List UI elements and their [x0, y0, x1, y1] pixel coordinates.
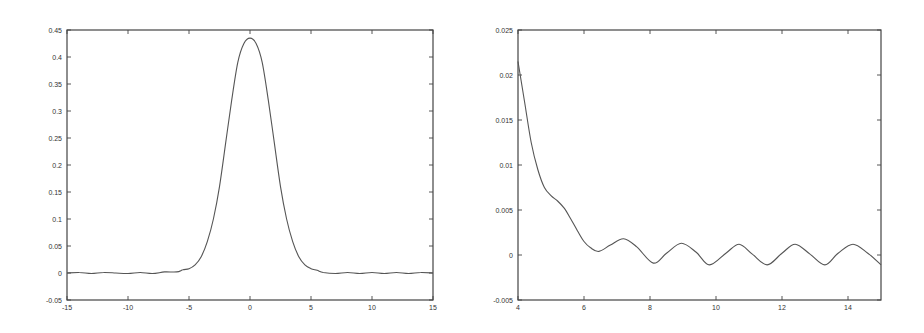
data-curve	[67, 38, 433, 273]
y-tick-label: 0.015	[495, 117, 513, 124]
y-tick-label: 0.25	[48, 135, 62, 142]
y-tick-label: 0.1	[52, 216, 62, 223]
x-tick-label: -15	[62, 304, 72, 311]
y-tick-label: 0.005	[495, 207, 513, 214]
x-tick-label: 10	[712, 304, 720, 311]
plot-frame	[518, 30, 881, 300]
figure: -15-10-5051015-0.0500.050.10.150.20.250.…	[0, 0, 924, 333]
y-tick-label: -0.05	[46, 297, 62, 304]
y-tick-label: 0.2	[52, 162, 62, 169]
right-plot-decaying-oscillation: 468101214-0.00500.0050.010.0150.020.025	[493, 27, 881, 312]
y-tick-label: 0.05	[48, 243, 62, 250]
y-tick-label: 0.4	[52, 54, 62, 61]
x-tick-label: 10	[368, 304, 376, 311]
x-tick-label: 5	[309, 304, 313, 311]
x-tick-label: 0	[248, 304, 252, 311]
y-tick-label: 0.3	[52, 108, 62, 115]
x-tick-label: 12	[778, 304, 786, 311]
y-tick-label: 0.02	[499, 72, 513, 79]
x-tick-label: 4	[516, 304, 520, 311]
x-tick-label: -10	[123, 304, 133, 311]
y-tick-label: 0.35	[48, 81, 62, 88]
x-tick-label: 15	[429, 304, 437, 311]
x-tick-label: 14	[844, 304, 852, 311]
left-plot-gaussian-peak: -15-10-5051015-0.0500.050.10.150.20.250.…	[46, 27, 437, 312]
y-tick-label: 0.45	[48, 27, 62, 34]
y-tick-label: 0.01	[499, 162, 513, 169]
x-tick-label: -5	[186, 304, 192, 311]
plot-frame	[67, 30, 433, 300]
x-tick-label: 6	[582, 304, 586, 311]
y-tick-label: -0.005	[493, 297, 513, 304]
data-curve	[518, 62, 881, 265]
y-tick-label: 0.15	[48, 189, 62, 196]
y-tick-label: 0	[58, 270, 62, 277]
y-tick-label: 0	[509, 252, 513, 259]
x-tick-label: 8	[648, 304, 652, 311]
y-tick-label: 0.025	[495, 27, 513, 34]
